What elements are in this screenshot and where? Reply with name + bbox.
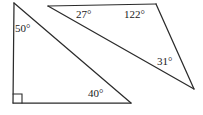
left-right-triangle: [13, 3, 131, 103]
left-triangle-hypotenuse: [14, 3, 131, 103]
left-triangle-vertical-leg: [13, 3, 14, 103]
right-triangle-right-edge: [156, 4, 194, 89]
angle-label-31: 31°: [157, 56, 172, 67]
right-triangle-long-diagonal: [48, 6, 194, 89]
angle-label-122: 122°: [124, 9, 145, 20]
geometry-figure: 50° 40° 27° 122° 31°: [0, 0, 203, 115]
right-angle-square-path: [13, 94, 22, 103]
angle-label-27: 27°: [76, 9, 91, 20]
right-angle-square-icon: [13, 94, 22, 103]
right-triangle-top-edge: [48, 4, 156, 6]
angle-label-40: 40°: [88, 88, 103, 99]
angle-label-50: 50°: [15, 23, 30, 34]
right-obtuse-triangle: [48, 4, 194, 89]
